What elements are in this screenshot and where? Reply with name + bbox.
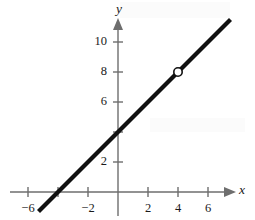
- y-tick-label-8: 8: [101, 64, 107, 78]
- y-tick-label-2: 2: [101, 154, 107, 168]
- x-axis: −6 −2 2 4 6 x: [10, 182, 245, 215]
- x-tick-label-minus6: −6: [21, 201, 34, 215]
- coordinate-plane: −6 −2 2 4 6 x 2 6 8 10 y: [0, 0, 255, 220]
- x-tick-label-minus2: −2: [81, 201, 94, 215]
- x-tick-label-2: 2: [145, 201, 151, 215]
- x-axis-label: x: [238, 182, 245, 197]
- x-tick-label-6: 6: [205, 201, 211, 215]
- y-tick-label-6: 6: [101, 94, 107, 108]
- x-tick-label-4: 4: [175, 201, 182, 215]
- graph-figure: −6 −2 2 4 6 x 2 6 8 10 y: [0, 0, 255, 220]
- y-axis-label: y: [114, 1, 122, 16]
- y-tick-label-10: 10: [95, 34, 108, 48]
- line-y-equals-x-plus-4: [39, 20, 231, 212]
- plotted-series-group: [39, 20, 231, 212]
- x-axis-arrow-icon: [224, 187, 236, 197]
- y-axis: 2 6 8 10 y: [95, 1, 124, 216]
- open-circle-point-marker: [174, 68, 182, 76]
- y-axis-arrow-icon: [113, 18, 123, 30]
